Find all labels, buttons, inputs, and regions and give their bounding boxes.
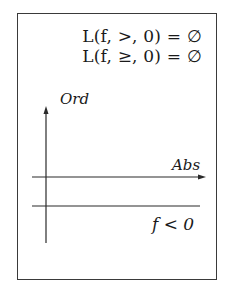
x-axis-arrow-icon xyxy=(198,175,206,180)
y-axis-arrow-icon xyxy=(44,106,49,114)
axes-plot xyxy=(0,0,226,292)
x-axis xyxy=(32,175,206,180)
y-axis xyxy=(44,106,49,243)
